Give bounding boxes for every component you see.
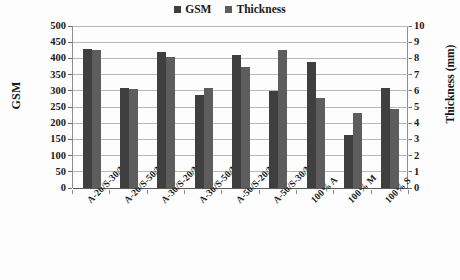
x-axis-tickmark: [109, 190, 110, 194]
legend-item-gsm: GSM: [174, 3, 211, 15]
bar-group: [110, 26, 147, 188]
bar-gsm: [232, 55, 241, 188]
plot-area: [72, 26, 408, 188]
bar-gsm: [344, 135, 353, 188]
y-axis-right-tick-label: 5: [414, 102, 442, 113]
y-axis-right-tick-label: 2: [414, 151, 442, 162]
bar-group: [297, 26, 334, 188]
y-axis-right-tick-label: 7: [414, 70, 442, 81]
y-axis-right-ticks: 109876543210: [414, 0, 442, 280]
x-axis-tickmark: [147, 190, 148, 194]
y-axis-left-ticks: 500450400350300250200150100500: [22, 0, 66, 280]
bar-gsm: [157, 52, 166, 188]
bar-thickness: [353, 113, 362, 188]
chart-container: GSM Thickness GSM Thickness (mm) 5004504…: [0, 0, 460, 280]
bar-group: [73, 26, 110, 188]
x-axis-tickmark: [296, 190, 297, 194]
bar-thickness: [92, 50, 101, 189]
x-axis-tickmark: [221, 190, 222, 194]
x-axis-tickmark: [259, 190, 260, 194]
bar-group: [222, 26, 259, 188]
legend-label-thickness: Thickness: [236, 3, 285, 15]
bar-group: [148, 26, 185, 188]
bar-thickness: [241, 67, 250, 188]
bar-thickness: [390, 109, 399, 188]
bar-gsm: [307, 62, 316, 188]
legend-swatch-thickness: [225, 6, 232, 13]
y-axis-left-tick-label: 350: [22, 70, 66, 81]
x-axis-tickmark: [371, 190, 372, 194]
y-axis-left-tick-label: 450: [22, 37, 66, 48]
y-axis-left-tick-label: 100: [22, 151, 66, 162]
y-axis-right-tick-label: 8: [414, 53, 442, 64]
y-axis-right-tick-label: 0: [414, 183, 442, 194]
bar-gsm: [381, 88, 390, 188]
x-axis-tickmark: [72, 190, 73, 194]
bar-group: [260, 26, 297, 188]
y-axis-right-tick-label: 9: [414, 37, 442, 48]
bar-gsm: [120, 88, 129, 188]
bar-group: [334, 26, 371, 188]
bar-thickness: [129, 89, 138, 188]
bar-gsm: [195, 95, 204, 188]
bar-group: [185, 26, 222, 188]
legend-label-gsm: GSM: [185, 3, 211, 15]
x-axis-tickmark: [333, 190, 334, 194]
y-axis-left-tick-label: 250: [22, 102, 66, 113]
x-axis-labels: A-20/S-30/M-50A-20/S-50/M-30A-30/S-20/M-…: [72, 190, 408, 280]
x-axis-tickmark: [408, 190, 409, 194]
bar-thickness: [316, 98, 325, 188]
y-axis-left-tick-label: 150: [22, 134, 66, 145]
y-axis-left-tick-label: 0: [22, 183, 66, 194]
bar-thickness: [204, 88, 213, 188]
y-axis-left-tick-label: 500: [22, 21, 66, 32]
bar-groups: [73, 26, 409, 188]
bar-gsm: [83, 49, 92, 188]
y-axis-right-tick-label: 10: [414, 21, 442, 32]
y-axis-right-tick-label: 3: [414, 134, 442, 145]
y-axis-left-tick-label: 50: [22, 167, 66, 178]
bar-gsm: [269, 91, 278, 188]
y-axis-left-tick-label: 200: [22, 118, 66, 129]
x-axis-tickmark: [184, 190, 185, 194]
legend-swatch-gsm: [174, 6, 181, 13]
y-axis-left-tick-label: 400: [22, 53, 66, 64]
bar-group: [372, 26, 409, 188]
y-axis-right-tick-label: 4: [414, 118, 442, 129]
bar-thickness: [166, 57, 175, 188]
y-axis-right-tick-label: 6: [414, 86, 442, 97]
bar-thickness: [278, 50, 287, 189]
y-axis-right-title: Thickness (mm): [444, 29, 456, 139]
legend-item-thickness: Thickness: [225, 3, 285, 15]
y-axis-right-tick-label: 1: [414, 167, 442, 178]
y-axis-left-tick-label: 300: [22, 86, 66, 97]
